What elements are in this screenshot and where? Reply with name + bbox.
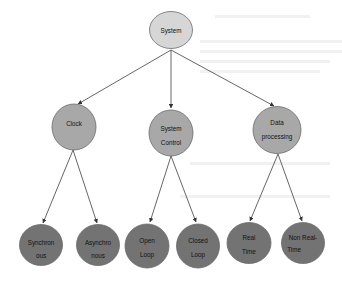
node-non-real-time-label-line2: Time	[287, 246, 301, 253]
edge-clock-synchronous	[43, 150, 73, 223]
node-synchronous: Synchron ous	[20, 225, 63, 266]
node-closed-loop-label-line1: Closed	[188, 237, 208, 244]
node-non-real-time: Non Real- Time	[282, 223, 325, 264]
node-non-real-time-label-line1: Non Real-	[289, 234, 317, 241]
background-show-through	[180, 15, 342, 198]
node-open-loop-label-line1: Open	[139, 237, 155, 245]
node-asynchronous-label-line2: nous	[91, 252, 105, 259]
node-asynchronous: Asynchro nous	[77, 225, 120, 266]
edge-system-control-closed-loop	[171, 156, 196, 222]
node-clock: Clock	[52, 104, 96, 150]
node-closed-loop: Closed Loop	[177, 224, 220, 268]
node-data-processing-label-line1: Data	[270, 119, 284, 126]
node-open-loop-label-line2: Loop	[140, 251, 155, 259]
node-real-time-label-line1: Real	[243, 234, 256, 241]
edge-system-clock	[78, 50, 171, 104]
node-synchronous-label-line1: Synchron	[28, 239, 55, 247]
node-data-processing-label-line2: processing	[262, 133, 293, 141]
edge-system-data-processing	[171, 50, 274, 106]
node-system-control-label-line1: System	[161, 125, 182, 133]
node-system-label: System	[161, 27, 182, 35]
node-real-time: Real Time	[227, 223, 271, 264]
node-data-processing: Data processing	[253, 107, 301, 154]
node-closed-loop-label-line2: Loop	[191, 251, 206, 259]
node-system-control: System Control	[149, 110, 193, 156]
node-real-time-label-line2: Time	[242, 248, 256, 255]
node-system-control-label-line2: Control	[161, 139, 181, 146]
node-system: System	[150, 12, 193, 49]
node-synchronous-label-line2: ous	[36, 252, 46, 259]
node-asynchronous-label-line1: Asynchro	[85, 239, 112, 247]
node-open-loop: Open Loop	[125, 224, 169, 268]
edge-system-control-open-loop	[150, 156, 171, 222]
edge-clock-asynchronous	[73, 150, 97, 223]
node-clock-label: Clock	[66, 120, 83, 127]
system-tree-diagram: System Clock System Control Data process…	[0, 0, 342, 282]
